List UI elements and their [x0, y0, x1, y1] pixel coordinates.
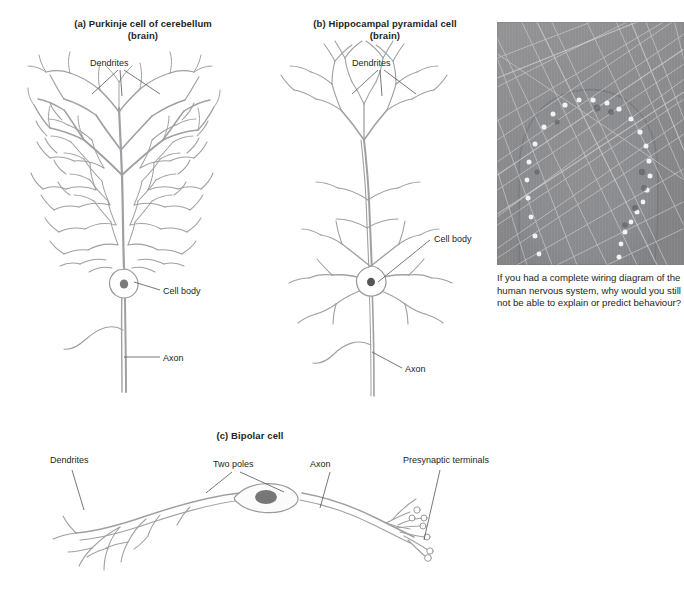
pyramidal-cell-drawing: [281, 41, 452, 396]
photo-caption: If you had a complete wiring diagram of …: [497, 272, 682, 310]
label-c-presynaptic-terminals: Presynaptic terminals: [403, 455, 489, 466]
micrograph-canvas: [497, 22, 684, 265]
label-c-axon: Axon: [310, 459, 331, 470]
label-b-axon: Axon: [405, 364, 426, 375]
label-a-cell-body: Cell body: [163, 286, 201, 297]
label-a-axon: Axon: [163, 353, 184, 364]
neuron-types-figure: (a) Purkinje cell of cerebellum (brain) …: [0, 0, 684, 592]
micrograph-photo: [497, 22, 684, 265]
label-c-two-poles: Two poles: [213, 459, 254, 470]
bipolar-cell-drawing: [53, 484, 433, 570]
label-b-cell-body: Cell body: [434, 234, 472, 245]
label-c-dendrites: Dendrites: [50, 455, 89, 466]
label-a-dendrites: Dendrites: [90, 58, 129, 69]
label-b-dendrites: Dendrites: [352, 58, 391, 69]
purkinje-cell-drawing: [28, 52, 220, 392]
